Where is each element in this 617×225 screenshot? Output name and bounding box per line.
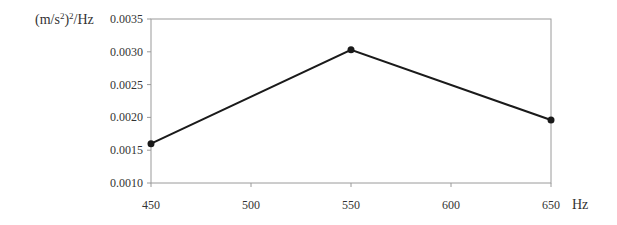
series-line <box>151 50 551 144</box>
x-tick-label: 600 <box>442 198 460 212</box>
y-tick-label: 0.0020 <box>110 110 143 124</box>
x-tick-label: 450 <box>142 198 160 212</box>
chart: 0.00100.00150.00200.00250.00300.0035 450… <box>0 0 617 225</box>
data-point-marker <box>348 46 355 53</box>
y-tick-label: 0.0010 <box>110 176 143 190</box>
x-axis-title: Hz <box>572 197 588 212</box>
y-tick-label: 0.0015 <box>110 143 143 157</box>
y-tick-label: 0.0030 <box>110 45 143 59</box>
y-tick-label: 0.0025 <box>110 78 143 92</box>
y-tick-label: 0.0035 <box>110 12 143 26</box>
data-point-marker <box>548 117 555 124</box>
y-axis-title: (m/s2)2/Hz <box>35 11 94 28</box>
data-series <box>148 46 555 147</box>
x-tick-label: 650 <box>542 198 560 212</box>
x-axis: 450500550600650 <box>142 183 560 212</box>
plot-area <box>151 19 551 183</box>
x-tick-label: 550 <box>342 198 360 212</box>
x-tick-label: 500 <box>242 198 260 212</box>
y-axis: 0.00100.00150.00200.00250.00300.0035 <box>110 12 151 190</box>
data-point-marker <box>148 140 155 147</box>
